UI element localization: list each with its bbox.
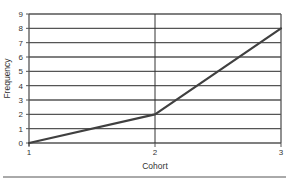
y-tick-label: 1 [19, 125, 24, 134]
y-tick-label: 3 [19, 96, 24, 105]
x-tick-label: 3 [279, 148, 284, 157]
y-tick-label: 7 [19, 39, 24, 48]
y-axis-tick-labels: 0123456789 [19, 10, 24, 148]
y-tick-label: 4 [19, 82, 24, 91]
y-tick-label: 9 [19, 10, 24, 19]
x-axis-title: Cohort [142, 161, 168, 171]
x-tick-label: 2 [153, 148, 158, 157]
x-axis-tick-labels: 123 [27, 148, 284, 157]
y-tick-label: 5 [19, 67, 24, 76]
y-tick-label: 2 [19, 110, 24, 119]
y-tick-label: 0 [19, 139, 24, 148]
y-axis-title: Frequency [2, 58, 12, 99]
y-tick-label: 8 [19, 24, 24, 33]
axes [26, 14, 281, 147]
gridlines [29, 14, 281, 143]
x-tick-label: 1 [27, 148, 32, 157]
line-chart: 0123456789 123 Frequency Cohort [0, 0, 289, 179]
y-tick-label: 6 [19, 53, 24, 62]
